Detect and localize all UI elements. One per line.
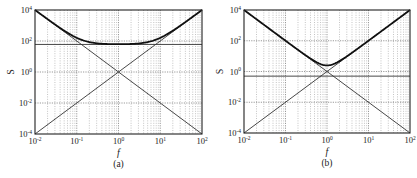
x-tick-label: 10-2 xyxy=(237,135,250,146)
y-tick-label: 104 xyxy=(21,5,33,16)
x-tick-label: 10-1 xyxy=(279,135,292,146)
y-axis-label: S xyxy=(214,69,225,75)
plot-a: 10410210010-210-410-210-1100101102Sf(a) xyxy=(0,0,208,178)
x-tick-label: 102 xyxy=(404,135,416,146)
y-tick-label: 102 xyxy=(21,36,33,47)
panel-label: (a) xyxy=(113,159,124,170)
y-tick-label: 10-2 xyxy=(228,97,241,108)
x-axis-label: f xyxy=(117,147,121,158)
x-tick-label: 101 xyxy=(155,136,167,147)
y-tick-label: 102 xyxy=(230,35,242,46)
x-tick-label: 10-1 xyxy=(70,136,83,147)
x-tick-label: 10-2 xyxy=(28,136,41,147)
y-tick-label: 100 xyxy=(230,66,242,77)
y-tick-label: 100 xyxy=(21,67,33,78)
plot-b: 10410210010-210-410-210-1100101102Sf(b) xyxy=(209,0,417,178)
panel-label: (b) xyxy=(321,158,332,169)
x-tick-label: 100 xyxy=(113,136,125,147)
y-tick-label: 10-2 xyxy=(19,98,32,109)
x-axis-label: f xyxy=(326,146,330,157)
x-tick-label: 101 xyxy=(363,135,375,146)
x-tick-label: 102 xyxy=(196,136,208,147)
chart-panel-b: 10410210010-210-410-210-1100101102Sf(b) xyxy=(209,0,417,178)
y-axis-label: S xyxy=(5,69,16,75)
y-tick-label: 104 xyxy=(230,5,242,16)
x-tick-label: 100 xyxy=(321,135,333,146)
chart-panel-a: 10410210010-210-410-210-1100101102Sf(a) xyxy=(0,0,208,178)
